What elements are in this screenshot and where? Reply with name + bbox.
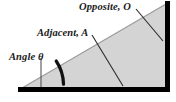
adjacent-label: Adjacent, A — [37, 28, 88, 39]
angle-label: Angle θ — [9, 52, 43, 63]
opposite-label: Opposite, O — [79, 2, 131, 13]
trigonometry-triangle-figure: Opposite, O Adjacent, A Angle θ — [0, 0, 176, 102]
